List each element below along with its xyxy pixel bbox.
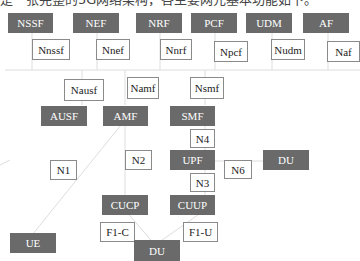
iface-nnssf[interactable]: Nnssf: [32, 39, 70, 60]
nf-udm[interactable]: UDM: [246, 13, 292, 33]
iface-f1u[interactable]: F1-U: [183, 222, 218, 242]
iface-nsmf[interactable]: Nsmf: [190, 77, 224, 99]
iface-nnrf[interactable]: Nnrf: [160, 39, 192, 60]
nf-nssf[interactable]: NSSF: [8, 13, 53, 33]
nf-ue[interactable]: UE: [10, 233, 56, 253]
iface-nnef[interactable]: Nnef: [96, 39, 130, 60]
nf-upf[interactable]: UPF: [170, 150, 215, 170]
nf-ausf[interactable]: AUSF: [41, 106, 87, 126]
nf-af[interactable]: AF: [303, 13, 349, 33]
iface-n4[interactable]: N4: [190, 129, 215, 148]
nf-cucp[interactable]: CUCP: [102, 195, 148, 215]
nf-smf[interactable]: SMF: [170, 106, 215, 126]
nf-du-right[interactable]: DU: [263, 150, 309, 170]
iface-nudm[interactable]: Nudm: [271, 39, 305, 60]
iface-nausf[interactable]: Nausf: [64, 79, 104, 101]
iface-n3[interactable]: N3: [190, 173, 215, 192]
nf-nef[interactable]: NEF: [73, 13, 119, 33]
iface-n6[interactable]: N6: [224, 160, 252, 179]
iface-namf[interactable]: Namf: [127, 77, 159, 99]
nf-pcf[interactable]: PCF: [191, 13, 237, 33]
nf-amf[interactable]: AMF: [103, 106, 148, 126]
nf-cuup[interactable]: CUUP: [170, 195, 215, 215]
iface-naf[interactable]: Naf: [327, 41, 360, 62]
iface-n2[interactable]: N2: [125, 150, 152, 170]
iface-f1c[interactable]: F1-C: [100, 222, 135, 242]
iface-npcf[interactable]: Npcf: [214, 41, 248, 62]
nf-nrf[interactable]: NRF: [136, 13, 182, 33]
nf-du-bottom[interactable]: DU: [134, 240, 180, 261]
iface-n1[interactable]: N1: [50, 160, 77, 180]
